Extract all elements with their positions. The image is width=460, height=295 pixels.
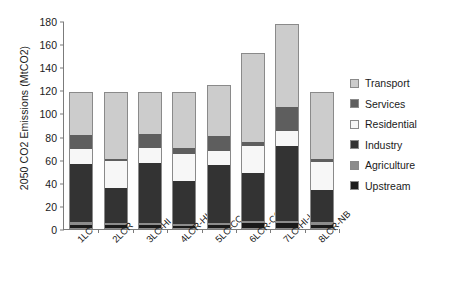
bar-segment-industry bbox=[242, 173, 264, 221]
bar-4lcr-hi[interactable] bbox=[172, 92, 196, 229]
legend-label: Industry bbox=[365, 139, 402, 151]
y-tick-label: 60 bbox=[45, 155, 64, 167]
y-tick-label: 20 bbox=[45, 201, 64, 213]
bar-segment-transport bbox=[139, 93, 161, 133]
x-tick-mark bbox=[305, 229, 306, 233]
plot-inner: 0204060801001201401601801LC2LCR3LC-HI4LC… bbox=[64, 22, 338, 229]
legend-item-residential[interactable]: Residential bbox=[350, 114, 417, 135]
bar-segment-transport bbox=[173, 93, 195, 148]
legend-item-services[interactable]: Services bbox=[350, 94, 417, 115]
x-tick-mark bbox=[167, 229, 168, 233]
bar-segment-transport bbox=[311, 93, 333, 159]
x-tick-mark bbox=[202, 229, 203, 233]
legend-label: Agriculture bbox=[365, 159, 415, 171]
y-axis-title: 2050 CO2 Emissions (MtCO2) bbox=[18, 8, 30, 228]
bar-segment-residential bbox=[105, 161, 127, 188]
bar-segment-services bbox=[208, 136, 230, 151]
legend-item-upstream[interactable]: Upstream bbox=[350, 176, 417, 197]
legend-swatch-agriculture-icon bbox=[350, 161, 359, 170]
bar-segment-services bbox=[276, 107, 298, 131]
bar-segment-industry bbox=[208, 165, 230, 223]
y-tick-label: 180 bbox=[39, 16, 64, 28]
bar-segment-industry bbox=[311, 190, 333, 222]
bar-segment-residential bbox=[311, 162, 333, 190]
bar-6lcr-cc[interactable] bbox=[241, 53, 265, 229]
legend-label: Upstream bbox=[365, 180, 411, 192]
bar-segment-industry bbox=[173, 181, 195, 224]
legend-swatch-industry-icon bbox=[350, 140, 359, 149]
bar-2lcr[interactable] bbox=[104, 92, 128, 229]
bar-segment-residential bbox=[208, 151, 230, 166]
plot-area: 0204060801001201401601801LC2LCR3LC-HI4LC… bbox=[63, 22, 338, 230]
bar-segment-services bbox=[139, 134, 161, 149]
bar-segment-residential bbox=[139, 148, 161, 163]
bar-segment-industry bbox=[70, 164, 92, 222]
y-tick-label: 80 bbox=[45, 132, 64, 144]
bar-segment-residential bbox=[70, 149, 92, 164]
bar-segment-services bbox=[70, 135, 92, 150]
bar-segment-transport bbox=[105, 93, 127, 159]
bar-segment-transport bbox=[276, 25, 298, 107]
bar-segment-residential bbox=[242, 146, 264, 173]
y-tick-label: 140 bbox=[39, 62, 64, 74]
x-tick-mark bbox=[339, 229, 340, 233]
legend-label: Services bbox=[365, 98, 405, 110]
legend-item-industry[interactable]: Industry bbox=[350, 135, 417, 156]
bar-segment-industry bbox=[105, 188, 127, 223]
bar-segment-industry bbox=[276, 146, 298, 220]
x-tick-mark bbox=[270, 229, 271, 233]
bar-1lc[interactable] bbox=[69, 92, 93, 229]
y-tick-label: 120 bbox=[39, 85, 64, 97]
legend-swatch-upstream-icon bbox=[350, 181, 359, 190]
legend-item-agriculture[interactable]: Agriculture bbox=[350, 155, 417, 176]
legend-item-transport[interactable]: Transport bbox=[350, 73, 417, 94]
bar-8lcr-nb[interactable] bbox=[310, 92, 334, 230]
y-tick-label: 40 bbox=[45, 178, 64, 190]
legend-label: Residential bbox=[365, 118, 417, 130]
bar-5lc-cc[interactable] bbox=[207, 85, 231, 229]
bar-7lc-hi-lc[interactable] bbox=[275, 24, 299, 229]
y-tick-label: 160 bbox=[39, 39, 64, 51]
bar-segment-industry bbox=[139, 163, 161, 223]
y-tick-label: 0 bbox=[51, 224, 64, 236]
bar-segment-transport bbox=[208, 86, 230, 136]
chart-legend: TransportServicesResidentialIndustryAgri… bbox=[350, 73, 417, 196]
bar-segment-residential bbox=[173, 154, 195, 181]
x-tick-mark bbox=[98, 229, 99, 233]
x-tick-mark bbox=[236, 229, 237, 233]
legend-swatch-transport-icon bbox=[350, 79, 359, 88]
bar-segment-transport bbox=[242, 54, 264, 143]
bar-segment-transport bbox=[70, 93, 92, 135]
chart-figure: 2050 CO2 Emissions (MtCO2) 0204060801001… bbox=[0, 0, 460, 295]
bar-segment-residential bbox=[276, 131, 298, 146]
legend-swatch-residential-icon bbox=[350, 120, 359, 129]
legend-swatch-services-icon bbox=[350, 99, 359, 108]
legend-label: Transport bbox=[365, 77, 410, 89]
y-tick-label: 100 bbox=[39, 108, 64, 120]
bar-3lc-hi[interactable] bbox=[138, 92, 162, 229]
